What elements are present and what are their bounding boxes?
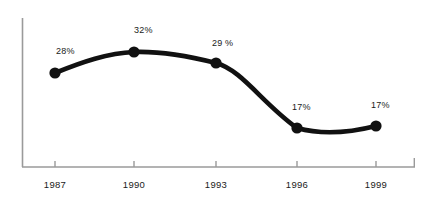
data-point-marker <box>210 57 221 68</box>
data-point-marker <box>49 67 60 78</box>
data-point-marker <box>370 120 381 131</box>
line-chart: 28% 32% 29 % 17% 17% 1987 1990 1993 1996… <box>0 0 432 208</box>
data-point-label: 17% <box>371 101 390 110</box>
x-axis-label-1996: 1996 <box>277 180 317 190</box>
x-axis-label-1993: 1993 <box>196 180 236 190</box>
data-point-marker <box>291 122 302 133</box>
x-axis-label-1990: 1990 <box>114 180 154 190</box>
data-point-label: 32% <box>134 26 153 35</box>
x-axis-label-1999: 1999 <box>356 180 396 190</box>
data-point-marker <box>128 46 139 57</box>
x-axis-label-1987: 1987 <box>35 180 75 190</box>
data-point-label: 17% <box>292 103 311 112</box>
data-point-label: 28% <box>56 47 75 56</box>
data-point-label: 29 % <box>212 39 233 48</box>
chart-canvas <box>0 0 432 208</box>
